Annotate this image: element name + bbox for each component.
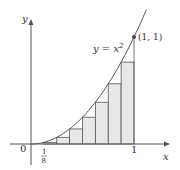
riemann-rectangle (83, 117, 96, 144)
riemann-rectangles (44, 62, 134, 144)
point-label: (1, 1) (138, 32, 162, 42)
origin-label: 0 (20, 143, 26, 154)
riemann-sum-diagram: y x 0 1 1 8 y = x2 (1, 1) (0, 0, 180, 170)
riemann-rectangle (70, 129, 83, 144)
riemann-rectangle (108, 84, 121, 144)
riemann-rectangle (57, 137, 70, 144)
point-one-one (132, 35, 136, 39)
riemann-rectangle (121, 62, 134, 144)
y-axis-label: y (21, 13, 28, 24)
tick-one-label: 1 (131, 144, 137, 155)
tick-eighth-numerator: 1 (42, 148, 46, 156)
x-axis-label: x (163, 151, 169, 162)
tick-eighth-denominator: 8 (42, 157, 46, 165)
riemann-rectangle (95, 102, 108, 144)
y-axis-arrow-icon (29, 19, 34, 25)
x-axis-arrow-icon (164, 142, 170, 147)
curve-label: y = x2 (92, 42, 124, 54)
